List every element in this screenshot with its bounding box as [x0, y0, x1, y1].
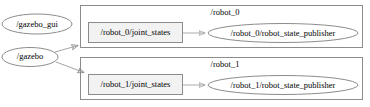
node-ellipse-robot0-robot-state-publisher[interactable]	[208, 24, 358, 43]
edge-gazebo-to-robot-1	[56, 62, 84, 73]
ros-node-graph: /robot_0 /robot_1 /robot_0/joint_states …	[0, 0, 370, 107]
node-box-robot1-joint-states[interactable]	[89, 75, 183, 95]
node-ellipse-robot1-robot-state-publisher[interactable]	[208, 76, 358, 95]
node-ellipse-gazebo-gui[interactable]	[2, 14, 72, 34]
node-ellipse-gazebo[interactable]	[2, 48, 58, 67]
node-box-robot0-joint-states[interactable]	[89, 23, 183, 43]
graph-canvas	[0, 0, 370, 107]
edge-gazebo-to-robot-0	[55, 46, 78, 53]
